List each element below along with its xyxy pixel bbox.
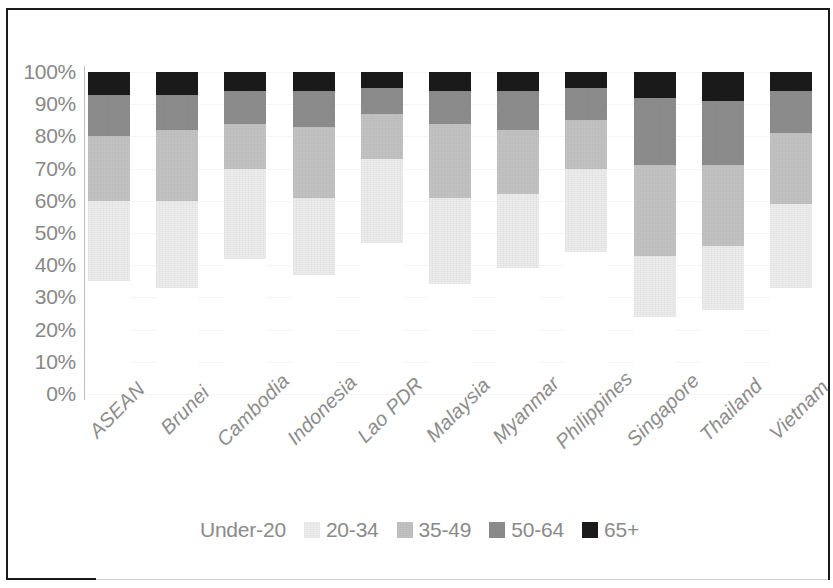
stacked-bar[interactable] [497, 72, 539, 394]
bar-group[interactable] [497, 72, 539, 394]
stacked-bar[interactable] [634, 72, 676, 394]
bar-segment[interactable] [565, 169, 607, 253]
bar-segment[interactable] [770, 288, 812, 394]
legend-item[interactable]: 65+ [582, 518, 639, 542]
stacked-bar[interactable] [770, 72, 812, 394]
bar-segment[interactable] [361, 243, 403, 394]
stacked-bar[interactable] [156, 72, 198, 394]
bar-segment[interactable] [293, 198, 335, 275]
bar-segment[interactable] [565, 88, 607, 120]
bar-segment[interactable] [497, 268, 539, 394]
bar-segment[interactable] [497, 91, 539, 130]
bar-segment[interactable] [497, 72, 539, 91]
x-axis-label-slot: Thailand [702, 398, 744, 508]
bar-segment[interactable] [88, 201, 130, 282]
stacked-bar[interactable] [429, 72, 471, 394]
bar-segment[interactable] [634, 165, 676, 255]
bar-segment[interactable] [88, 281, 130, 394]
bar-segment[interactable] [634, 98, 676, 166]
bar-segment[interactable] [361, 88, 403, 114]
bar-segment[interactable] [88, 136, 130, 200]
x-axis-label-slot: Lao PDR [361, 398, 403, 508]
legend-item[interactable]: Under-20 [194, 518, 286, 542]
bar-segment[interactable] [361, 114, 403, 159]
plot-area: 0%10%20%30%40%50%60%70%80%90%100% [88, 72, 812, 394]
bar-segment[interactable] [224, 91, 266, 123]
legend-item[interactable]: 50-64 [489, 518, 564, 542]
legend-label: 20-34 [326, 518, 379, 542]
bar-segment[interactable] [770, 72, 812, 91]
chart-frame-right-rule [828, 8, 830, 580]
y-axis-tick-label: 60% [35, 189, 76, 213]
bar-segment[interactable] [497, 194, 539, 268]
stacked-bar[interactable] [88, 72, 130, 394]
bar-segment[interactable] [634, 256, 676, 317]
x-axis-label-slot: Cambodia [224, 398, 266, 508]
bar-segment[interactable] [156, 201, 198, 288]
bar-group[interactable] [429, 72, 471, 394]
y-axis-tick-label: 10% [35, 350, 76, 374]
bar-segment[interactable] [224, 124, 266, 169]
bar-segment[interactable] [702, 310, 744, 394]
bar-segment[interactable] [156, 72, 198, 95]
chart-legend: Under-2020-3435-4950-6465+ [0, 518, 833, 542]
bar-segment[interactable] [293, 127, 335, 198]
y-axis-tick-label: 90% [35, 92, 76, 116]
bar-group[interactable] [565, 72, 607, 394]
bar-group[interactable] [156, 72, 198, 394]
legend-item[interactable]: 20-34 [304, 518, 379, 542]
y-axis-tick-label: 0% [46, 382, 76, 406]
bar-segment[interactable] [361, 72, 403, 88]
bar-segment[interactable] [770, 133, 812, 204]
bar-segment[interactable] [293, 275, 335, 394]
bar-segment[interactable] [565, 72, 607, 88]
bar-segment[interactable] [429, 91, 471, 123]
bar-segment[interactable] [770, 204, 812, 288]
bar-segment[interactable] [293, 72, 335, 91]
bar-segment[interactable] [702, 72, 744, 101]
bar-group[interactable] [361, 72, 403, 394]
bar-segment[interactable] [702, 101, 744, 165]
legend-label: 65+ [604, 518, 639, 542]
y-axis-tick-label: 80% [35, 124, 76, 148]
x-axis-label-slot: Singapore [634, 398, 676, 508]
bar-segment[interactable] [770, 91, 812, 133]
bar-segment[interactable] [429, 284, 471, 393]
bar-segment[interactable] [497, 130, 539, 194]
bar-segment[interactable] [88, 95, 130, 137]
bar-segment[interactable] [565, 120, 607, 168]
bar-segment[interactable] [429, 72, 471, 91]
bar-segment[interactable] [361, 159, 403, 243]
bar-segment[interactable] [634, 72, 676, 98]
bar-segment[interactable] [293, 91, 335, 126]
legend-swatch [397, 522, 413, 538]
bar-segment[interactable] [429, 124, 471, 198]
bar-group[interactable] [293, 72, 335, 394]
stacked-bar[interactable] [224, 72, 266, 394]
bar-group[interactable] [224, 72, 266, 394]
bar-segment[interactable] [156, 95, 198, 130]
bar-segment[interactable] [224, 259, 266, 394]
x-axis-label-slot: Indonesia [293, 398, 335, 508]
bar-segment[interactable] [702, 246, 744, 310]
bar-segment[interactable] [156, 130, 198, 201]
bar-group[interactable] [88, 72, 130, 394]
bar-segment[interactable] [429, 198, 471, 285]
bar-segment[interactable] [224, 169, 266, 259]
bar-group[interactable] [702, 72, 744, 394]
bar-segment[interactable] [634, 317, 676, 394]
bar-group[interactable] [770, 72, 812, 394]
x-axis-category-labels: ASEANBruneiCambodiaIndonesiaLao PDRMalay… [88, 398, 812, 508]
stacked-bar[interactable] [565, 72, 607, 394]
bar-segment[interactable] [565, 252, 607, 394]
legend-item[interactable]: 35-49 [397, 518, 472, 542]
bar-segment[interactable] [702, 165, 744, 246]
bar-group[interactable] [634, 72, 676, 394]
bar-segment[interactable] [224, 72, 266, 91]
bar-segment[interactable] [88, 72, 130, 95]
stacked-bar[interactable] [293, 72, 335, 394]
stacked-bar[interactable] [361, 72, 403, 394]
stacked-bar[interactable] [702, 72, 744, 394]
bar-segment[interactable] [156, 288, 198, 394]
legend-swatch [582, 522, 598, 538]
